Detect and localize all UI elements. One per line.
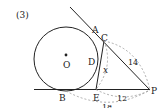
problem-number: (3) (16, 10, 29, 20)
dimension-arc-bp (66, 90, 150, 102)
tangent-line-ap (70, 7, 150, 90)
label-p: P (151, 86, 157, 96)
label-12: 12 (117, 94, 127, 103)
geometry-figure: (3) A C D O x 14 B E 12 P 18 (0, 0, 164, 108)
tangent-circle-diagram: (3) A C D O x 14 B E 12 P 18 (0, 0, 164, 108)
center-dot (65, 54, 68, 57)
label-x: x (103, 65, 108, 75)
label-a: A (91, 25, 99, 35)
label-14: 14 (128, 58, 138, 67)
label-d: D (88, 57, 95, 67)
label-18: 18 (102, 103, 112, 108)
label-o: O (63, 60, 70, 70)
label-e: E (93, 93, 100, 103)
label-b: B (59, 93, 66, 103)
label-c: C (101, 33, 108, 43)
